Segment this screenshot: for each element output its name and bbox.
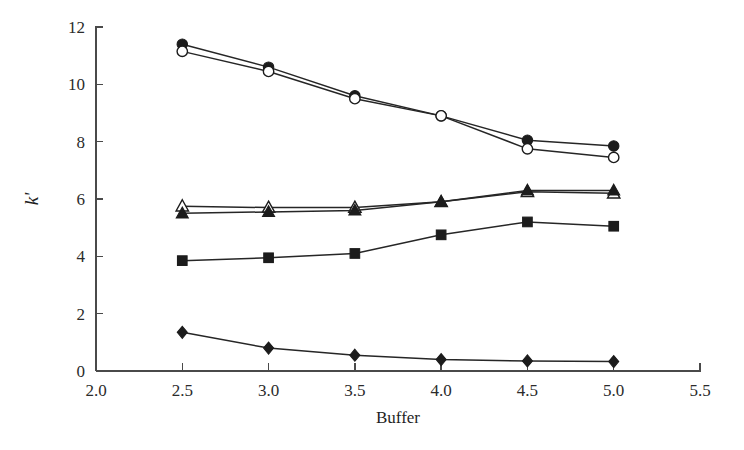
x-tick-label: 2.0 — [85, 381, 106, 400]
data-point-marker — [609, 221, 619, 231]
data-point-marker — [522, 144, 532, 154]
series-filled-circle-series — [177, 39, 619, 151]
data-point-marker — [177, 256, 187, 266]
data-point-marker — [264, 342, 274, 354]
data-point-marker — [350, 349, 360, 361]
x-tick-label: 5.0 — [603, 381, 624, 400]
y-tick-label: 6 — [77, 190, 86, 209]
data-point-marker — [436, 111, 446, 121]
x-axis-title: Buffer — [376, 408, 420, 427]
x-tick-label: 2.5 — [172, 381, 193, 400]
data-point-marker — [436, 230, 446, 240]
series-line — [182, 190, 613, 213]
series-filled-diamond-series — [177, 326, 618, 367]
y-tick-label: 2 — [77, 305, 86, 324]
x-tick-label: 3.0 — [258, 381, 279, 400]
y-axis-ticks: 024681012 — [68, 18, 103, 381]
y-tick-label: 4 — [77, 247, 86, 266]
data-point-marker — [609, 356, 619, 368]
series-open-circle-series — [177, 46, 619, 162]
x-axis-line — [96, 364, 700, 371]
data-point-marker — [263, 66, 273, 76]
series-line — [182, 222, 613, 261]
axis-frame — [96, 27, 700, 371]
line-chart-plot: 024681012 2.02.53.03.54.04.55.05.5 Buffe… — [0, 0, 744, 450]
x-tick-label: 3.5 — [344, 381, 365, 400]
x-tick-label: 4.5 — [517, 381, 538, 400]
series-filled-triangle-series — [176, 184, 619, 218]
chart-figure: 024681012 2.02.53.03.54.04.55.05.5 Buffe… — [0, 0, 744, 450]
data-point-marker — [436, 354, 446, 366]
data-point-marker — [523, 217, 533, 227]
y-tick-label: 10 — [68, 75, 85, 94]
y-tick-label: 8 — [77, 133, 86, 152]
series-line — [182, 332, 613, 361]
data-point-marker — [608, 184, 620, 195]
data-point-marker — [177, 46, 187, 56]
x-tick-label: 5.5 — [689, 381, 710, 400]
data-point-marker — [609, 141, 619, 151]
series-filled-square-series — [177, 217, 618, 265]
data-point-marker — [522, 355, 532, 367]
data-point-marker — [609, 152, 619, 162]
series-line — [182, 192, 613, 208]
y-axis-title: k' — [21, 192, 42, 205]
x-tick-label: 4.0 — [431, 381, 452, 400]
data-point-marker — [521, 184, 533, 195]
data-series-group — [176, 39, 620, 368]
data-point-marker — [264, 253, 274, 263]
y-tick-label: 0 — [77, 362, 86, 381]
data-point-marker — [350, 93, 360, 103]
series-line — [182, 44, 613, 146]
data-point-marker — [177, 326, 187, 338]
x-axis-ticks: 2.02.53.03.54.04.55.05.5 — [85, 363, 710, 400]
y-tick-label: 12 — [68, 18, 85, 37]
series-open-triangle-series — [176, 185, 620, 212]
data-point-marker — [350, 249, 360, 259]
